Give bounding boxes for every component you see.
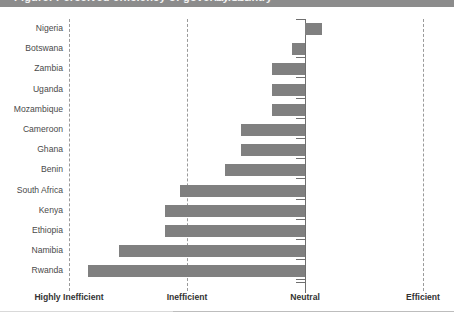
cut-off-title-text: Figure: Perceived efficiency of governme…: [14, 0, 248, 3]
y-axis-label-south-africa: South Africa: [17, 185, 63, 195]
axis-tick-mark: [296, 259, 305, 260]
y-axis-label-cameroon: Cameroon: [23, 124, 63, 134]
y-axis-label-mozambique: Mozambique: [14, 104, 63, 114]
plot-area: NigeriaBotswanaZambiaUgandaMozambiqueCam…: [0, 9, 454, 291]
chart-row: South Africa: [0, 181, 454, 201]
axis-tick-mark: [296, 19, 305, 20]
chart-row: Namibia: [0, 241, 454, 261]
chart-row: Uganda: [0, 80, 454, 100]
axis-tick-mark: [296, 77, 305, 78]
chart-row: Nigeria: [0, 19, 454, 39]
axis-tick-mark: [296, 279, 305, 280]
cut-off-title-band: Figure: Perceived efficiency of governme…: [0, 0, 454, 7]
y-axis-label-uganda: Uganda: [33, 84, 63, 94]
bar-ghana[interactable]: [241, 144, 305, 156]
chart-row: Mozambique: [0, 100, 454, 120]
axis-tick-mark: [296, 138, 305, 139]
chart-row: Kenya: [0, 201, 454, 221]
chart-row: Ethiopia: [0, 221, 454, 241]
chart-row: Rwanda: [0, 261, 454, 281]
chart-row: Zambia: [0, 59, 454, 79]
chart-row: Cameroon: [0, 120, 454, 140]
y-axis-label-ghana: Ghana: [37, 144, 63, 154]
bar-benin[interactable]: [225, 164, 305, 176]
axis-tick-mark: [296, 239, 305, 240]
y-axis-label-nigeria: Nigeria: [36, 23, 63, 33]
y-axis-label-benin: Benin: [41, 164, 63, 174]
bar-cameroon[interactable]: [241, 124, 305, 136]
chart-row: Botswana: [0, 39, 454, 59]
y-axis-label-kenya: Kenya: [39, 205, 63, 215]
chart-row: Benin: [0, 160, 454, 180]
x-tick-label-efficient: Efficient: [406, 292, 440, 302]
bar-south-africa[interactable]: [180, 185, 305, 197]
bottom-divider-secondary: [173, 311, 454, 312]
x-axis-tick-labels: Highly InefficientInefficientNeutralEffi…: [0, 292, 454, 306]
axis-tick-mark: [296, 178, 305, 179]
bar-kenya[interactable]: [165, 205, 305, 217]
axis-tick-mark: [296, 118, 305, 119]
bar-mozambique[interactable]: [272, 104, 305, 116]
cut-off-title-text-right: by country: [216, 0, 272, 3]
y-axis-label-ethiopia: Ethiopia: [32, 225, 63, 235]
y-axis-label-rwanda: Rwanda: [31, 265, 63, 275]
chart-row: Ghana: [0, 140, 454, 160]
x-tick-label-highly-inefficient: Highly Inefficient: [34, 292, 103, 302]
x-tick-label-inefficient: Inefficient: [167, 292, 208, 302]
y-axis-label-namibia: Namibia: [31, 245, 63, 255]
x-tick-label-neutral: Neutral: [290, 292, 320, 302]
bar-nigeria[interactable]: [305, 23, 322, 35]
axis-tick-mark: [296, 219, 305, 220]
bar-botswana[interactable]: [292, 43, 305, 55]
bar-rwanda[interactable]: [88, 265, 305, 277]
axis-tick-mark: [296, 57, 305, 58]
bar-zambia[interactable]: [272, 63, 305, 75]
axis-tick-mark: [296, 158, 305, 159]
bar-ethiopia[interactable]: [165, 225, 305, 237]
y-axis-label-zambia: Zambia: [34, 63, 63, 73]
axis-tick-mark: [296, 199, 305, 200]
axis-tick-mark: [296, 282, 305, 283]
axis-tick-mark: [296, 98, 305, 99]
y-axis-label-botswana: Botswana: [25, 43, 63, 53]
bar-uganda[interactable]: [272, 84, 305, 96]
bar-namibia[interactable]: [119, 245, 305, 257]
chart-figure: Figure: Perceived efficiency of governme…: [0, 0, 454, 317]
